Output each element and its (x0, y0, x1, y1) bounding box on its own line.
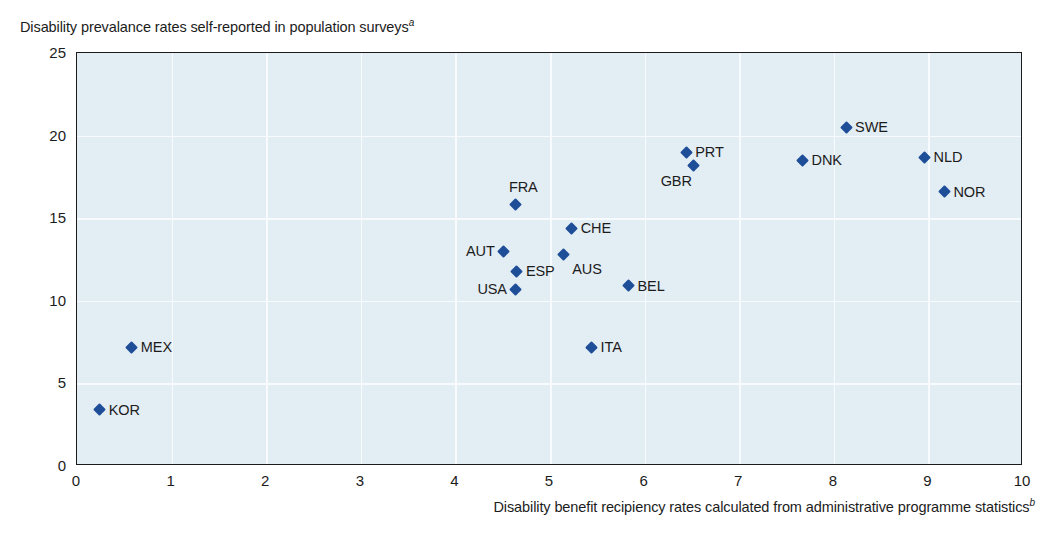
data-point-marker (510, 199, 523, 212)
gridline-vertical (739, 53, 741, 464)
gridline-vertical (266, 53, 268, 464)
x-axis-tick-label: 3 (356, 472, 364, 489)
gridline-vertical (834, 53, 836, 464)
gridline-horizontal (77, 136, 1021, 138)
data-point-marker (796, 154, 809, 167)
gridline-vertical (550, 53, 552, 464)
x-axis-tick-label: 4 (450, 472, 458, 489)
x-axis-tick-label: 2 (261, 472, 269, 489)
data-point-label: PRT (695, 145, 723, 160)
x-axis-tick-label: 7 (734, 472, 742, 489)
y-axis-tick-label: 15 (8, 209, 66, 226)
y-axis-tick-label: 20 (8, 126, 66, 143)
data-point-label: USA (477, 282, 507, 297)
data-point-marker (565, 222, 578, 235)
data-point-marker (622, 280, 635, 293)
data-point-marker (510, 283, 523, 296)
data-point-marker (585, 341, 598, 354)
data-point-label: DNK (812, 153, 842, 168)
data-point-label: SWE (855, 120, 888, 135)
x-axis-tick-label: 10 (1014, 472, 1031, 489)
data-point-marker (511, 265, 524, 278)
data-point-marker (557, 248, 570, 261)
gridline-vertical (928, 53, 930, 464)
x-axis-title: Disability benefit recipiency rates calc… (0, 499, 1035, 515)
y-axis-tick-label: 0 (8, 457, 66, 474)
gridline-horizontal (77, 383, 1021, 385)
y-axis-tick-label: 25 (8, 44, 66, 61)
gridline-vertical (172, 53, 174, 464)
data-point-label: BEL (638, 279, 665, 294)
gridline-vertical (361, 53, 363, 464)
gridline-horizontal (77, 301, 1021, 303)
plot-area: KORMEXAUTESPUSAFRAITAAUSCHEBELPRTGBRDNKS… (76, 52, 1022, 465)
data-point-marker (687, 159, 700, 172)
chart-title: Disability prevalance rates self-reporte… (20, 19, 414, 35)
gridline-vertical (455, 53, 457, 464)
data-point-marker (680, 146, 693, 159)
y-axis-tick-label: 5 (8, 374, 66, 391)
data-point-label: ITA (601, 340, 622, 355)
gridline-horizontal (77, 218, 1021, 220)
data-point-marker (93, 403, 106, 416)
data-point-label: MEX (141, 340, 172, 355)
chart-title-text: Disability prevalance rates self-reporte… (20, 19, 409, 35)
data-point-label: NLD (934, 150, 963, 165)
data-point-label: NOR (953, 185, 985, 200)
data-point-marker (938, 185, 951, 198)
data-point-label: AUT (466, 244, 495, 259)
x-axis-tick-label: 8 (829, 472, 837, 489)
x-axis-title-text: Disability benefit recipiency rates calc… (493, 499, 1029, 515)
x-axis-tick-label: 1 (166, 472, 174, 489)
data-point-label: KOR (109, 403, 140, 418)
data-point-marker (497, 245, 510, 258)
data-point-label: AUS (572, 262, 602, 277)
data-point-label: GBR (661, 174, 692, 189)
data-point-marker (840, 121, 853, 134)
data-point-marker (125, 341, 138, 354)
y-axis-tick-label: 10 (8, 291, 66, 308)
y-axis: 0510152025 (0, 0, 66, 541)
x-axis-tick-label: 6 (639, 472, 647, 489)
x-axis-tick-label: 5 (545, 472, 553, 489)
gridline-vertical (645, 53, 647, 464)
data-point-label: CHE (581, 221, 611, 236)
data-point-label: ESP (526, 264, 555, 279)
x-axis-tick-label: 0 (72, 472, 80, 489)
x-axis-footnote-marker: b (1030, 497, 1035, 508)
x-axis-tick-label: 9 (923, 472, 931, 489)
data-point-label: FRA (509, 180, 538, 195)
chart-title-footnote-marker: a (409, 17, 414, 28)
